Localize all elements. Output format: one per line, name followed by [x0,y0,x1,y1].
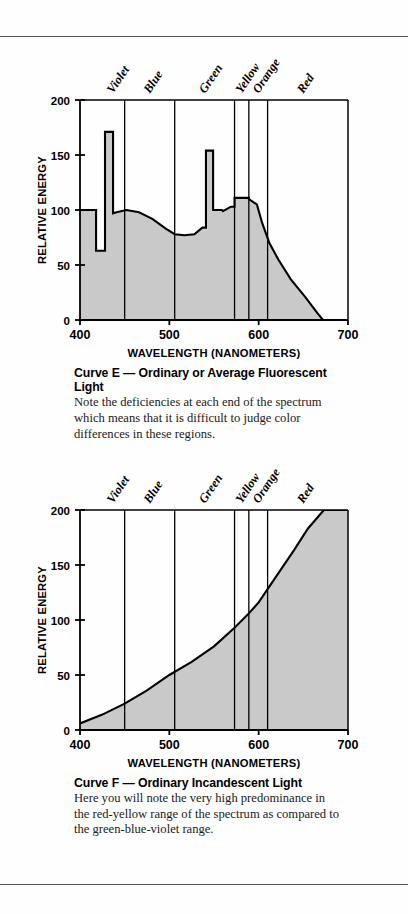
y-tick-label-1: 50 [57,260,70,272]
y-tick-label-2: 100 [51,205,70,217]
y-tick-label-3: 150 [51,150,70,162]
x-axis-title: WAVELENGTH (NANOMETERS) [128,757,301,769]
x-axis-title: WAVELENGTH (NANOMETERS) [128,347,301,359]
document-page: 050100150200400500600700WAVELENGTH (NANO… [0,0,408,914]
caption-curve-e: Curve E — Ordinary or Average Fluorescen… [74,366,342,442]
band-label-green: Green [196,472,225,506]
x-tick-label-2: 600 [248,738,269,752]
band-label-group: VioletBlueGreenYellowOrangeRed [104,465,317,506]
chart-curve-e: 050100150200400500600700WAVELENGTH (NANO… [0,40,408,370]
y-tick-label-2: 100 [51,615,70,627]
caption-title-curve-e: Curve E — Ordinary or Average Fluorescen… [74,366,342,394]
bottom-divider-rule [0,884,408,885]
band-label-group: VioletBlueGreenYellowOrangeRed [104,55,317,96]
x-tick-label-2: 600 [248,328,269,342]
x-tick-label-1: 500 [159,738,180,752]
caption-body-curve-f: Here you will note the very high predomi… [74,791,342,838]
chart-curve-f: 050100150200400500600700WAVELENGTH (NANO… [0,450,408,780]
x-tick-label-0: 400 [70,738,91,752]
data-area-group [80,132,348,320]
y-axis-title: RELATIVE ENERGY [36,566,48,674]
band-label-violet: Violet [104,473,132,506]
data-area-group [80,510,348,730]
x-tick-label-1: 500 [159,328,180,342]
y-tick-label-0: 0 [64,725,70,737]
x-tick-label-0: 400 [70,328,91,342]
band-label-blue: Blue [140,477,166,506]
plot-group: 050100150200400500600700WAVELENGTH (NANO… [36,465,358,769]
figure-curve-e: 050100150200400500600700WAVELENGTH (NANO… [0,40,408,370]
band-label-blue: Blue [140,67,166,96]
y-tick-label-4: 200 [51,505,70,517]
caption-title-curve-f: Curve F — Ordinary Incandescent Light [74,776,342,790]
band-label-green: Green [196,62,225,96]
x-tick-label-3: 700 [338,328,359,342]
caption-curve-f: Curve F — Ordinary Incandescent Light He… [74,776,342,838]
top-divider-rule [0,36,408,37]
y-tick-label-4: 200 [51,95,70,107]
caption-body-curve-e: Note the deficiencies at each end of the… [74,395,342,442]
band-label-red: Red [294,71,318,97]
y-tick-label-3: 150 [51,560,70,572]
x-tick-label-3: 700 [338,738,359,752]
y-axis-title: RELATIVE ENERGY [36,156,48,264]
y-tick-label-0: 0 [64,315,70,327]
band-label-red: Red [294,481,318,507]
figure-curve-f: 050100150200400500600700WAVELENGTH (NANO… [0,450,408,780]
data-area-fill [80,510,348,730]
y-tick-label-1: 50 [57,670,70,682]
plot-group: 050100150200400500600700WAVELENGTH (NANO… [36,55,358,359]
x-axis-group: 400500600700 [70,730,359,752]
x-axis-group: 400500600700 [70,320,359,342]
band-label-violet: Violet [104,63,132,96]
